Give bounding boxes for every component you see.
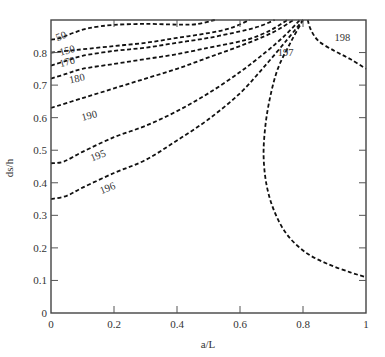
y-tick-label: 0.3 [33,209,47,221]
y-tick-label: 0.6 [33,112,47,124]
axes: 00.20.40.60.8100.10.20.30.40.50.60.70.8 [33,20,369,330]
contour-label-197: 197 [278,47,294,58]
plot-frame [51,20,366,313]
contour-label-190: 190 [80,108,98,123]
x-tick-label: 0.6 [233,318,247,330]
contour-line-198 [308,20,366,69]
x-tick-label: 0.2 [107,318,121,330]
x-tick-label: 0.8 [296,318,310,330]
y-tick-label: 0.1 [33,274,47,286]
y-axis-label: ds/h [3,158,15,177]
contour-labels: 50150170180190195196197198 [54,29,350,196]
x-axis-label: a/L [201,338,216,350]
contour-line-170 [51,20,275,66]
contour-label-198: 198 [335,32,351,43]
contour-chart: 50150170180190195196197198 00.20.40.60.8… [0,0,385,357]
contour-label-180: 180 [68,71,86,85]
x-tick-label: 0 [48,318,54,330]
contour-label-50: 50 [54,29,68,43]
y-tick-label: 0.2 [33,242,47,254]
x-tick-label: 1 [363,318,369,330]
contour-line-190 [51,20,294,108]
contour-label-196: 196 [98,180,117,196]
x-tick-label: 0.4 [170,318,184,330]
y-tick-label: 0.4 [33,177,47,189]
y-tick-label: 0 [42,307,48,319]
contour-label-195: 195 [89,147,108,163]
y-tick-label: 0.8 [33,47,47,59]
y-tick-label: 0.7 [33,79,47,91]
y-tick-label: 0.5 [33,144,47,156]
